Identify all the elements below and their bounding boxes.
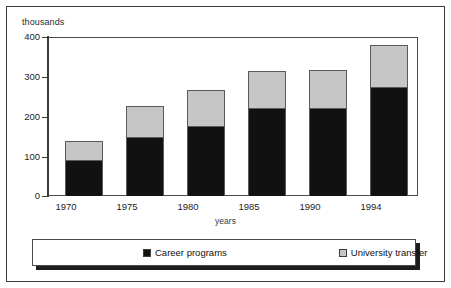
y-tick-label-200: 200 bbox=[4, 111, 40, 122]
bar-segment-career-programs-1990[interactable] bbox=[309, 108, 347, 196]
x-tick-label-1985: 1985 bbox=[219, 201, 279, 212]
bar-segment-career-programs-1980[interactable] bbox=[187, 126, 225, 196]
bar-group-1994[interactable] bbox=[370, 45, 408, 196]
y-tick-label-0: 0 bbox=[4, 190, 40, 201]
y-tick-mark-300 bbox=[42, 77, 47, 78]
legend-swatch-career-programs-icon bbox=[143, 249, 151, 257]
bar-segment-career-programs-1985[interactable] bbox=[248, 108, 286, 196]
y-tick-mark-400 bbox=[42, 37, 47, 38]
bars-layer bbox=[48, 37, 418, 196]
chart-figure: thousands 400 300 200 100 0 1970 1975 19… bbox=[0, 0, 451, 288]
y-tick-label-400: 400 bbox=[4, 31, 40, 42]
legend-item-career-programs[interactable]: Career programs bbox=[143, 247, 227, 258]
bar-segment-university-transfer-1980[interactable] bbox=[187, 90, 225, 126]
bar-group-1985[interactable] bbox=[248, 71, 286, 196]
bar-group-1990[interactable] bbox=[309, 70, 347, 196]
legend-swatch-university-transfer-icon bbox=[339, 249, 347, 257]
y-tick-mark-100 bbox=[42, 157, 47, 158]
x-tick-label-1990: 1990 bbox=[280, 201, 340, 212]
y-tick-label-300: 300 bbox=[4, 71, 40, 82]
bar-segment-university-transfer-1994[interactable] bbox=[370, 45, 408, 87]
y-axis-title: thousands bbox=[22, 17, 64, 27]
bar-segment-university-transfer-1990[interactable] bbox=[309, 70, 347, 108]
x-tick-label-1980: 1980 bbox=[158, 201, 218, 212]
legend-item-university-transfer[interactable]: University transfer bbox=[339, 247, 428, 258]
legend-box: Career programs University transfer bbox=[32, 239, 416, 266]
bar-segment-career-programs-1994[interactable] bbox=[370, 87, 408, 196]
bar-segment-university-transfer-1985[interactable] bbox=[248, 71, 286, 108]
bar-segment-university-transfer-1975[interactable] bbox=[126, 106, 164, 137]
y-tick-label-100: 100 bbox=[4, 151, 40, 162]
bar-group-1980[interactable] bbox=[187, 90, 225, 196]
x-tick-label-1975: 1975 bbox=[97, 201, 157, 212]
x-tick-label-1994: 1994 bbox=[341, 201, 401, 212]
legend-label-career-programs: Career programs bbox=[155, 247, 227, 258]
x-axis-title: years bbox=[0, 216, 451, 226]
y-tick-mark-200 bbox=[42, 117, 47, 118]
legend-label-university-transfer: University transfer bbox=[351, 247, 428, 258]
bar-segment-career-programs-1970[interactable] bbox=[65, 160, 103, 196]
bar-group-1975[interactable] bbox=[126, 106, 164, 196]
bar-segment-career-programs-1975[interactable] bbox=[126, 137, 164, 196]
y-tick-mark-0 bbox=[42, 196, 47, 197]
x-tick-label-1970: 1970 bbox=[36, 201, 96, 212]
bar-group-1970[interactable] bbox=[65, 141, 103, 196]
bar-segment-university-transfer-1970[interactable] bbox=[65, 141, 103, 160]
